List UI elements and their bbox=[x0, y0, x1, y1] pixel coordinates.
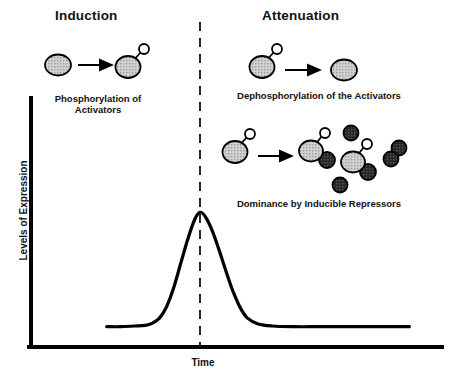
phosphate-icon bbox=[139, 44, 149, 54]
phosphorylated-activator-icon bbox=[116, 44, 150, 78]
repressor-icon bbox=[344, 126, 359, 141]
diagram-dephosphorylation bbox=[250, 44, 358, 81]
phosphorylated-activator-icon bbox=[250, 44, 283, 78]
diagram-phosphorylation bbox=[45, 44, 149, 78]
phosphate-icon bbox=[362, 139, 372, 149]
figure-panel: Induction Attenuation Phosphorylation of… bbox=[0, 0, 454, 379]
phosphorylated-activator-icon bbox=[223, 129, 256, 163]
molecular-diagrams bbox=[0, 0, 454, 379]
diagram-repressor-dominance bbox=[223, 126, 407, 193]
activator-icon bbox=[331, 60, 357, 81]
repressor-icon bbox=[384, 152, 399, 167]
phosphate-icon bbox=[320, 128, 330, 138]
repressor-dimer bbox=[384, 141, 407, 167]
activator-repressor-complex bbox=[341, 139, 376, 180]
phosphate-icon bbox=[272, 44, 282, 54]
activator-repressor-complex bbox=[299, 128, 335, 168]
repressor-icon bbox=[333, 178, 348, 193]
phosphate-icon bbox=[245, 129, 255, 139]
activator-icon bbox=[45, 55, 71, 76]
